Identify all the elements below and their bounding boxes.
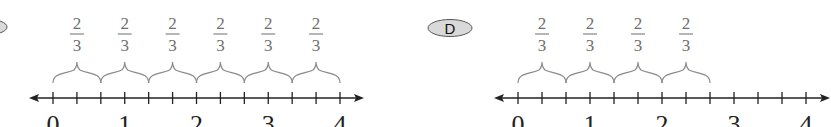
number-line-panel: 01234232323232323 bbox=[0, 14, 364, 127]
number-line-panel: D0123423232323 bbox=[428, 14, 830, 127]
jump-brace bbox=[566, 62, 614, 83]
number-line-diagram: 01234232323232323D0123423232323 bbox=[0, 0, 831, 127]
svg-text:3: 3 bbox=[264, 36, 273, 55]
fraction-label: 23 bbox=[213, 14, 227, 55]
fraction-label: 23 bbox=[70, 14, 84, 55]
svg-text:3: 3 bbox=[121, 36, 130, 55]
axis-label: 3 bbox=[728, 110, 741, 127]
svg-text:3: 3 bbox=[73, 36, 82, 55]
svg-text:3: 3 bbox=[634, 36, 643, 55]
svg-text:2: 2 bbox=[73, 14, 82, 33]
jump-brace bbox=[292, 62, 340, 83]
jump-brace bbox=[53, 62, 101, 83]
axis-label: 4 bbox=[800, 110, 813, 127]
svg-text:3: 3 bbox=[168, 36, 177, 55]
fraction-label: 23 bbox=[309, 14, 323, 55]
svg-text:2: 2 bbox=[538, 14, 547, 33]
axis-label: 0 bbox=[47, 110, 60, 127]
fraction-label: 23 bbox=[679, 14, 693, 55]
svg-text:2: 2 bbox=[682, 14, 691, 33]
svg-text:3: 3 bbox=[538, 36, 547, 55]
badge-letter: D bbox=[445, 20, 456, 37]
axis-label: 2 bbox=[190, 110, 203, 127]
jump-brace bbox=[197, 62, 245, 83]
svg-text:2: 2 bbox=[634, 14, 643, 33]
jump-brace bbox=[614, 62, 662, 83]
svg-text:3: 3 bbox=[586, 36, 595, 55]
jump-brace bbox=[518, 62, 566, 83]
jump-brace bbox=[662, 62, 710, 83]
jump-brace bbox=[149, 62, 197, 83]
fraction-label: 23 bbox=[261, 14, 275, 55]
answer-option-badge[interactable] bbox=[0, 19, 7, 35]
svg-text:2: 2 bbox=[312, 14, 321, 33]
svg-text:2: 2 bbox=[264, 14, 273, 33]
svg-text:3: 3 bbox=[312, 36, 321, 55]
fraction-label: 23 bbox=[631, 14, 645, 55]
fraction-label: 23 bbox=[118, 14, 132, 55]
svg-text:2: 2 bbox=[121, 14, 130, 33]
fraction-label: 23 bbox=[166, 14, 180, 55]
axis-label: 3 bbox=[262, 110, 275, 127]
axis-label: 4 bbox=[334, 110, 347, 127]
fraction-label: 23 bbox=[535, 14, 549, 55]
svg-text:2: 2 bbox=[216, 14, 225, 33]
svg-text:3: 3 bbox=[216, 36, 225, 55]
axis-label: 2 bbox=[656, 110, 669, 127]
axis-label: 1 bbox=[118, 110, 131, 127]
svg-text:3: 3 bbox=[682, 36, 691, 55]
answer-option-badge[interactable]: D bbox=[428, 20, 472, 37]
axis-label: 1 bbox=[584, 110, 597, 127]
jump-brace bbox=[244, 62, 292, 83]
axis-label: 0 bbox=[512, 110, 525, 127]
svg-text:2: 2 bbox=[586, 14, 595, 33]
svg-text:2: 2 bbox=[168, 14, 177, 33]
jump-brace bbox=[101, 62, 149, 83]
fraction-label: 23 bbox=[583, 14, 597, 55]
